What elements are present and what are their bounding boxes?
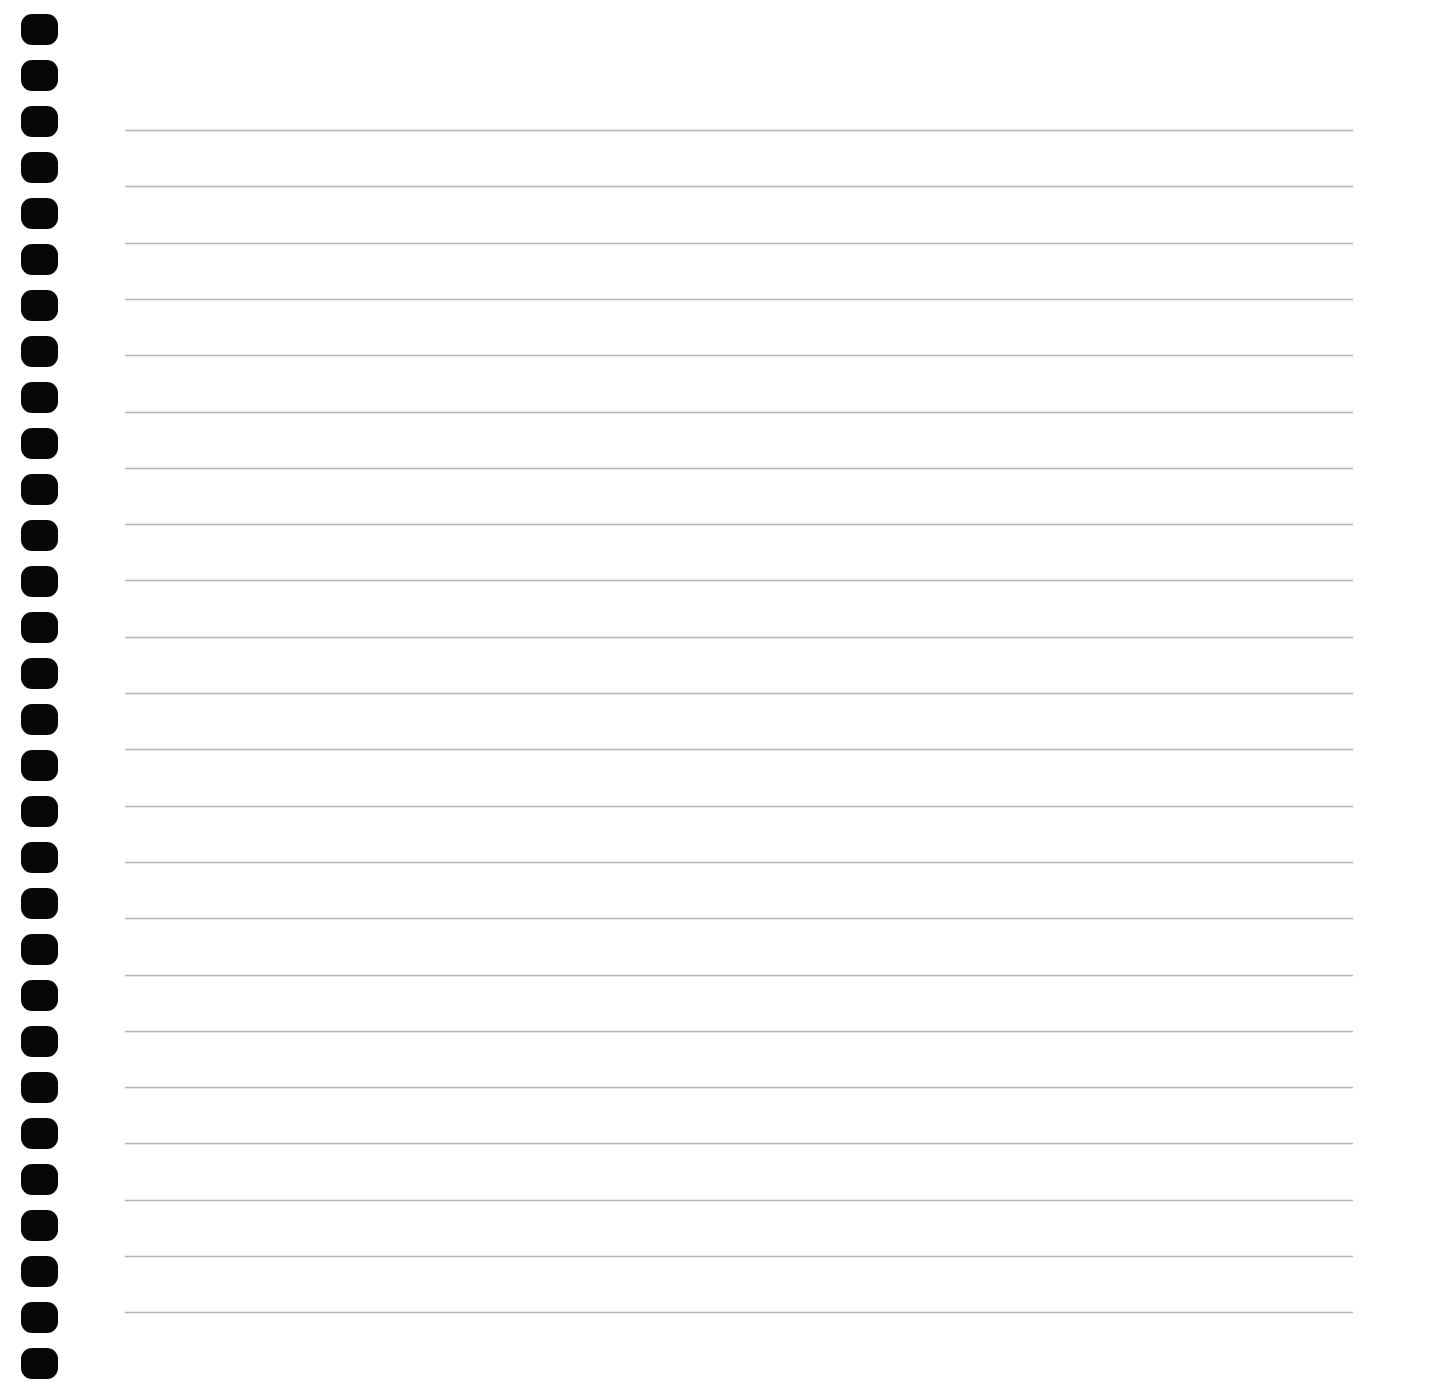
binding-hole bbox=[21, 1072, 58, 1103]
bottom-margin bbox=[125, 1302, 1353, 1389]
binding-hole bbox=[21, 1164, 58, 1195]
top-margin bbox=[125, 0, 1353, 130]
binding-hole bbox=[21, 428, 58, 459]
writing-area[interactable] bbox=[125, 130, 1353, 1302]
binding-hole bbox=[21, 612, 58, 643]
binding-hole bbox=[21, 1026, 58, 1057]
binding-hole bbox=[21, 152, 58, 183]
binding-hole bbox=[21, 1302, 58, 1333]
binding-hole bbox=[21, 336, 58, 367]
right-margin bbox=[1353, 0, 1434, 1389]
binding-hole bbox=[21, 106, 58, 137]
binding-hole bbox=[21, 382, 58, 413]
binding-hole bbox=[21, 842, 58, 873]
binding-hole bbox=[21, 1348, 58, 1379]
binding-hole bbox=[21, 980, 58, 1011]
binding-hole bbox=[21, 566, 58, 597]
binding-hole bbox=[21, 60, 58, 91]
binding-hole bbox=[21, 244, 58, 275]
spiral-binding-holes bbox=[0, 0, 90, 1389]
binding-hole bbox=[21, 290, 58, 321]
binding-hole bbox=[21, 474, 58, 505]
notepad-page bbox=[0, 0, 1434, 1389]
binding-hole bbox=[21, 1118, 58, 1149]
binding-hole bbox=[21, 1256, 58, 1287]
binding-hole bbox=[21, 658, 58, 689]
binding-hole bbox=[21, 704, 58, 735]
binding-hole bbox=[21, 1210, 58, 1241]
binding-hole bbox=[21, 888, 58, 919]
binding-hole bbox=[21, 750, 58, 781]
binding-hole bbox=[21, 520, 58, 551]
binding-hole bbox=[21, 14, 58, 45]
binding-hole bbox=[21, 934, 58, 965]
binding-hole bbox=[21, 796, 58, 827]
binding-hole bbox=[21, 198, 58, 229]
